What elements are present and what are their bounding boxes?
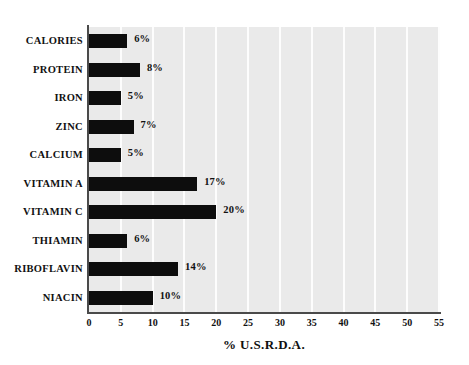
x-tick-label: 5: [109, 317, 133, 328]
bar-value-label: 6%: [134, 233, 150, 244]
bar: [89, 291, 153, 305]
bar-value-label: 5%: [128, 147, 144, 158]
x-tick-label: 50: [395, 317, 419, 328]
category-label: IRON: [0, 92, 83, 103]
x-tick-label: 45: [363, 317, 387, 328]
bar-value-label: 6%: [134, 33, 150, 44]
category-label: PROTEIN: [0, 64, 83, 75]
x-tick-label: 15: [172, 317, 196, 328]
category-label: ZINC: [0, 121, 83, 132]
x-tick-label: 20: [204, 317, 228, 328]
x-tick-label: 10: [141, 317, 165, 328]
category-label: CALCIUM: [0, 149, 83, 160]
bar-value-label: 20%: [223, 204, 245, 215]
x-axis-title: % U.S.R.D.A.: [89, 337, 439, 353]
category-label: VITAMIN A: [0, 178, 83, 189]
bar-value-label: 8%: [147, 62, 163, 73]
x-tick-label: 25: [236, 317, 260, 328]
x-tick-label: 0: [77, 317, 101, 328]
bar: [89, 148, 121, 162]
category-label: RIBOFLAVIN: [0, 263, 83, 274]
bar-value-label: 17%: [204, 176, 226, 187]
bar: [89, 205, 216, 219]
category-label: THIAMIN: [0, 235, 83, 246]
x-axis-line: [87, 312, 441, 314]
bar-value-label: 14%: [185, 261, 207, 272]
bar: [89, 63, 140, 77]
category-label: VITAMIN C: [0, 206, 83, 217]
bar: [89, 91, 121, 105]
bar: [89, 234, 127, 248]
bar: [89, 120, 134, 134]
x-tick-label: 40: [332, 317, 356, 328]
x-tick-label: 30: [268, 317, 292, 328]
category-label: CALORIES: [0, 35, 83, 46]
bar: [89, 262, 178, 276]
x-tick-label: 55: [427, 317, 451, 328]
bar-value-label: 7%: [141, 119, 157, 130]
bar: [89, 177, 197, 191]
bar-value-label: 10%: [160, 290, 182, 301]
bar-chart-figure: 6%8%5%7%5%17%20%6%14%10% CALORIESPROTEIN…: [0, 0, 469, 365]
bar: [89, 34, 127, 48]
category-label: NIACIN: [0, 292, 83, 303]
bar-value-label: 5%: [128, 90, 144, 101]
x-tick-label: 35: [300, 317, 324, 328]
